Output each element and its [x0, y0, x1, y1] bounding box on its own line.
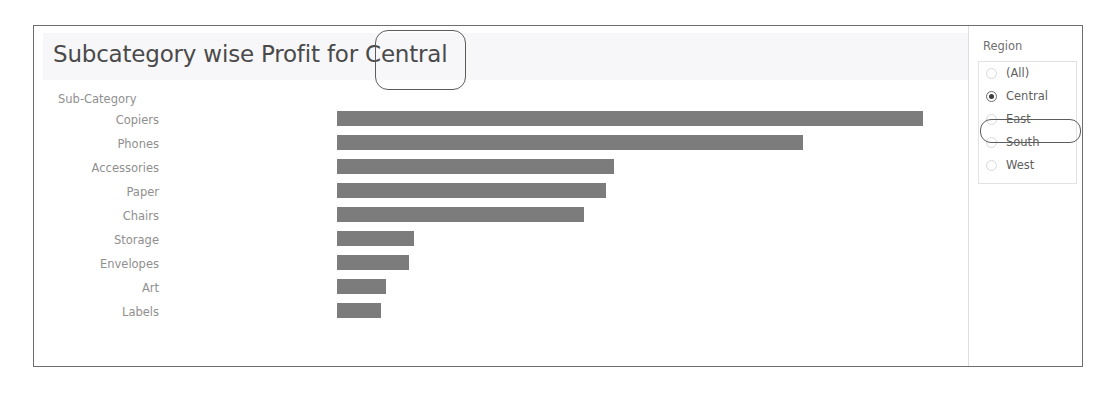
- region-filter-title: Region: [983, 39, 1022, 53]
- bar-row[interactable]: Copiers: [34, 109, 968, 133]
- bar-accessories[interactable]: [337, 159, 614, 174]
- bar-row[interactable]: Phones: [34, 133, 968, 157]
- region-option-label: East: [1006, 112, 1031, 126]
- bar-track: [337, 253, 968, 277]
- bar-copiers[interactable]: [337, 111, 923, 126]
- bar-row[interactable]: Chairs: [34, 205, 968, 229]
- region-option-label: Central: [1006, 89, 1048, 103]
- region-option-east[interactable]: East: [979, 108, 1076, 131]
- region-option-all[interactable]: (All): [979, 62, 1076, 85]
- bar-track: [337, 157, 968, 181]
- radio-icon[interactable]: [986, 68, 997, 79]
- chart-title-band: Subcategory wise Profit for Central: [43, 33, 968, 80]
- region-option-label: West: [1006, 158, 1034, 172]
- bar-label-envelopes: Envelopes: [34, 257, 159, 271]
- bar-track: [337, 301, 968, 325]
- region-option-label: (All): [1006, 66, 1029, 80]
- bar-phones[interactable]: [337, 135, 803, 150]
- region-option-label: South: [1006, 135, 1039, 149]
- bar-labels[interactable]: [337, 303, 381, 318]
- bar-track: [337, 133, 968, 157]
- bar-paper[interactable]: [337, 183, 606, 198]
- bar-label-copiers: Copiers: [34, 113, 159, 127]
- dashboard-frame: Subcategory wise Profit for Central Sub-…: [33, 25, 1083, 367]
- bar-label-storage: Storage: [34, 233, 159, 247]
- region-filter-list: (All) Central East South West: [978, 61, 1077, 184]
- bar-storage[interactable]: [337, 231, 414, 246]
- region-option-central[interactable]: Central: [979, 85, 1076, 108]
- bar-track: [337, 181, 968, 205]
- chart-pane: Subcategory wise Profit for Central Sub-…: [34, 26, 968, 366]
- bar-track: [337, 277, 968, 301]
- radio-icon[interactable]: [986, 137, 997, 148]
- region-option-south[interactable]: South: [979, 131, 1076, 154]
- bar-track: [337, 109, 968, 133]
- radio-icon[interactable]: [986, 160, 997, 171]
- bar-track: [337, 205, 968, 229]
- radio-icon[interactable]: [986, 114, 997, 125]
- bar-label-phones: Phones: [34, 137, 159, 151]
- bar-row[interactable]: Paper: [34, 181, 968, 205]
- bar-art[interactable]: [337, 279, 386, 294]
- bar-label-chairs: Chairs: [34, 209, 159, 223]
- region-option-west[interactable]: West: [979, 154, 1076, 177]
- bar-chart-plot-area: Copiers Phones Accessories Paper: [34, 109, 968, 339]
- bar-label-paper: Paper: [34, 185, 159, 199]
- bar-row[interactable]: Envelopes: [34, 253, 968, 277]
- bar-row[interactable]: Accessories: [34, 157, 968, 181]
- bar-chairs[interactable]: [337, 207, 584, 222]
- bar-row[interactable]: Labels: [34, 301, 968, 325]
- radio-selected-icon[interactable]: [986, 91, 997, 102]
- region-filter-pane: Region (All) Central East South West: [969, 26, 1083, 366]
- bar-row[interactable]: Storage: [34, 229, 968, 253]
- page-title: Subcategory wise Profit for Central: [53, 41, 447, 67]
- bar-row[interactable]: Art: [34, 277, 968, 301]
- axis-header-label: Sub-Category: [58, 92, 137, 106]
- bar-label-labels: Labels: [34, 305, 159, 319]
- bar-label-art: Art: [34, 281, 159, 295]
- bar-envelopes[interactable]: [337, 255, 409, 270]
- bar-label-accessories: Accessories: [34, 161, 159, 175]
- bar-track: [337, 229, 968, 253]
